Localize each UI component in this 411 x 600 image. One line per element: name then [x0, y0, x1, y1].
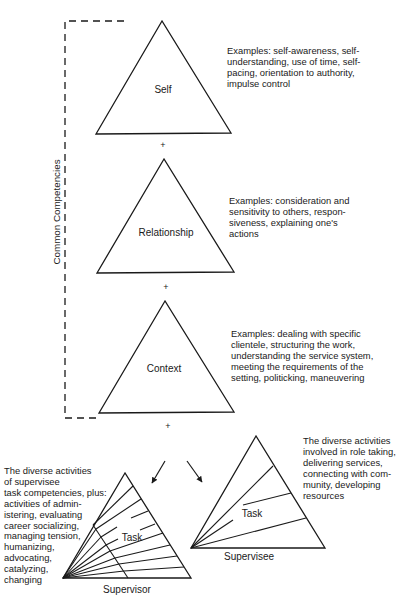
relationship-label: Relationship — [138, 227, 193, 238]
plus-sign-2: + — [163, 282, 168, 292]
common-competencies-label: Common Competencies — [51, 159, 62, 264]
self-examples: Examples: self-awareness, self- understa… — [227, 46, 360, 90]
context-label: Context — [147, 363, 182, 374]
supervisor-description-line: changing — [4, 575, 107, 586]
supervisor-description: The diverse activities of supervisee tas… — [4, 466, 107, 586]
self-triangle: Self — [96, 21, 231, 134]
supervisee-description-line: resources — [303, 491, 396, 502]
context-examples: Examples: dealing with specific clientel… — [231, 329, 373, 384]
relationship-examples-line: actions — [229, 229, 349, 240]
supervisee-description: The diverse activities involved in role … — [303, 436, 396, 501]
context-triangle: Context — [99, 301, 234, 413]
supervisee-task-label: Task — [242, 508, 264, 519]
context-examples-line: setting, politicking, maneuvering — [231, 373, 373, 384]
common-competencies-bracket — [65, 21, 124, 418]
supervisor-description-line: activities of admin- — [4, 499, 107, 510]
relationship-examples: Examples: consideration and sensitivity … — [229, 196, 349, 240]
supervisor-description-line: istering, evaluating — [4, 510, 107, 521]
plus-sign-3: + — [165, 421, 170, 431]
supervisee-caption: Supervisee — [224, 551, 274, 562]
arrow-to-supervisee-icon — [187, 461, 202, 482]
arrow-to-supervisor-icon — [152, 461, 165, 483]
context-examples-line: meeting the requirements of the — [231, 362, 373, 373]
self-examples-line: impulse control — [227, 79, 360, 90]
supervisor-caption: Supervisor — [103, 584, 151, 595]
supervisor-task-label: Task — [122, 532, 144, 543]
supervisee-description-line: connecting with com- — [303, 469, 396, 480]
plus-sign-1: + — [160, 140, 165, 150]
supervisee-description-line: munity, developing — [303, 480, 396, 491]
relationship-triangle: Relationship — [97, 159, 234, 273]
self-label: Self — [154, 84, 171, 95]
